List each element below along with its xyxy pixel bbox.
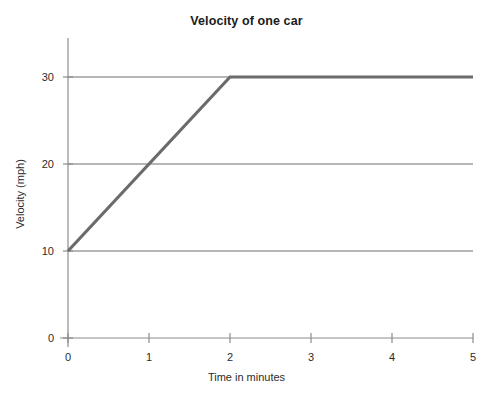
y-tick-label-30: 30 xyxy=(28,71,54,83)
y-tick-label-10: 10 xyxy=(28,245,54,257)
x-tick-label-3: 3 xyxy=(308,351,314,363)
chart-figure: Velocity of one car 0 10 20 30 0 1 2 3 4… xyxy=(0,0,493,407)
x-tick-label-4: 4 xyxy=(389,351,395,363)
x-tick-label-2: 2 xyxy=(227,351,233,363)
y-tick-label-20: 20 xyxy=(28,158,54,170)
y-tick-label-0: 0 xyxy=(28,332,54,344)
plot-area xyxy=(0,0,493,407)
y-axis-label: Velocity (mph) xyxy=(14,129,26,259)
x-axis-label: Time in minutes xyxy=(0,371,493,383)
x-tick-label-5: 5 xyxy=(470,351,476,363)
x-tick-label-0: 0 xyxy=(65,351,71,363)
x-tick-label-1: 1 xyxy=(146,351,152,363)
